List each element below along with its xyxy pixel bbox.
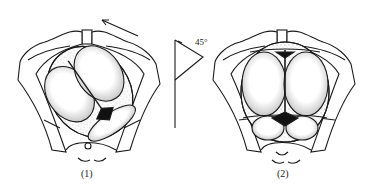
birth-mechanism-diagram (0, 0, 375, 193)
panel-1-label: (1) (81, 168, 93, 179)
pelvis-panel-1 (18, 20, 160, 161)
angle-label: 45° (195, 37, 208, 47)
rotation-angle-indicator (175, 40, 203, 128)
pelvis-panel-2 (213, 30, 355, 163)
panel-2-label: (2) (277, 168, 289, 179)
